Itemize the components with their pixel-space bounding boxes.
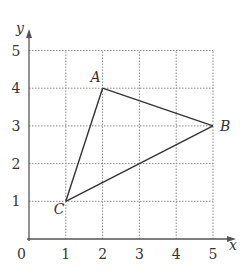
y-tick-label: 5 [12, 43, 21, 59]
y-axis-arrowhead-icon [26, 29, 32, 38]
vertex-label-c: C [54, 201, 65, 217]
x-tick-label: 3 [135, 246, 144, 262]
y-tick-label: 2 [12, 156, 21, 172]
x-tick-label: 2 [98, 246, 107, 262]
origin-label: 0 [17, 246, 26, 262]
x-axis-label: x [229, 237, 237, 253]
edge-ca [66, 88, 103, 201]
x-tick-label: 1 [61, 246, 70, 262]
x-tick-label: 4 [172, 246, 181, 262]
y-tick-label: 4 [12, 80, 21, 96]
tick-labels: 1234512345 [12, 43, 218, 263]
axes: x y 0 [15, 20, 237, 262]
x-tick-label: 5 [209, 246, 218, 262]
y-axis-label: y [15, 20, 25, 36]
edge-ab [103, 88, 213, 126]
y-tick-label: 3 [12, 118, 21, 134]
vertex-label-b: B [219, 118, 230, 134]
vertex-labels: ABC [54, 69, 230, 217]
coordinate-diagram: x y 0 1234512345 ABC [0, 0, 248, 274]
y-tick-label: 1 [12, 193, 21, 209]
vertex-label-a: A [89, 69, 101, 85]
